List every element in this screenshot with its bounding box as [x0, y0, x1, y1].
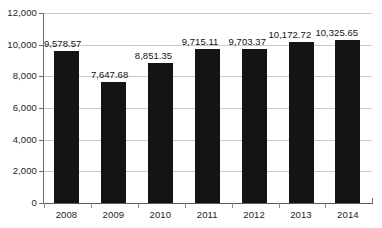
- y-axis-tick-label: 4,000: [13, 135, 37, 145]
- x-axis-label-2011: 2011: [187, 209, 227, 220]
- bar-2014: [335, 40, 360, 203]
- y-axis-tick-label: 12,000: [7, 8, 37, 18]
- x-axis-tick: [138, 203, 139, 208]
- y-axis-tick-label: 6,000: [13, 103, 37, 113]
- y-axis-tick-label: 0: [32, 198, 37, 208]
- data-label-2011: 9,715.11: [182, 37, 219, 47]
- bar-2009: [101, 82, 126, 203]
- bar-2011: [195, 49, 220, 203]
- y-axis-tick-label: 8,000: [13, 71, 37, 81]
- y-axis-tick: [39, 108, 43, 109]
- x-axis-label-2013: 2013: [281, 209, 321, 220]
- bar-2010: [148, 63, 173, 203]
- data-label-2013: 10,172.72: [269, 30, 312, 40]
- bar-2008: [54, 51, 79, 203]
- x-axis-end-cap: [372, 198, 373, 204]
- x-axis-tick: [91, 203, 92, 208]
- gridline: [44, 13, 372, 14]
- y-axis-tick: [39, 203, 43, 204]
- y-axis-tick: [39, 140, 43, 141]
- y-axis-tick: [39, 171, 43, 172]
- data-label-2014: 10,325.65: [315, 28, 358, 38]
- gridline: [44, 203, 372, 204]
- x-axis-tick: [232, 203, 233, 208]
- bar-chart: 02,0004,0006,0008,00010,00012,000 9,578.…: [0, 0, 382, 228]
- x-axis-label-2010: 2010: [140, 209, 180, 220]
- y-axis-tick-label: 2,000: [13, 166, 37, 176]
- y-axis-tick: [39, 45, 43, 46]
- data-label-2009: 7,647.68: [91, 70, 128, 80]
- data-label-2010: 8,851.35: [135, 51, 172, 61]
- bar-2013: [289, 42, 314, 203]
- data-label-2008: 9,578.57: [44, 39, 81, 49]
- x-axis-label-2012: 2012: [234, 209, 274, 220]
- x-axis-label-2008: 2008: [47, 209, 87, 220]
- x-axis-label-2014: 2014: [328, 209, 368, 220]
- data-label-2012: 9,703.37: [229, 37, 266, 47]
- y-axis-tick-label: 10,000: [7, 40, 37, 50]
- x-axis-tick: [279, 203, 280, 208]
- x-axis-tick: [44, 203, 45, 208]
- x-axis-label-2009: 2009: [93, 209, 133, 220]
- x-axis-tick: [325, 203, 326, 208]
- bar-2012: [242, 49, 267, 203]
- x-axis-tick: [185, 203, 186, 208]
- y-axis-tick: [39, 76, 43, 77]
- y-axis-tick: [39, 13, 43, 14]
